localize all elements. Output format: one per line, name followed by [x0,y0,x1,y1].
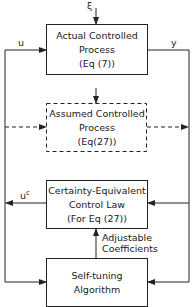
certainty-equivalent-control-law-block: Certainty-Equivalent Control Law (For Eq… [46,180,148,229]
block-label-line1: Assumed Controlled [49,107,144,121]
self-tuning-algorithm-block: Self-tuning Algorithm [46,258,148,307]
block-label-line1: Self-tuning [71,269,122,283]
block-label-line3: (For Eq (27)) [67,212,127,226]
input-u-label: u [18,37,24,48]
adjustable-coefficients-label-line1: Adjustable [102,232,152,243]
block-label-line2: Control Law [69,198,125,212]
block-label-line1: Certainty-Equivalent [48,184,146,198]
control-signal-label: uc [20,188,30,201]
adjustable-coefficients-label-line2: Coefficients [102,243,158,254]
block-diagram: Actual Controlled Process (Eq (7)) Assum… [0,0,193,307]
disturbance-label: ξ [87,0,92,11]
output-y-label: y [171,37,177,48]
block-label-line2: Process [79,43,115,57]
block-label-line2: Process [79,121,115,135]
block-label-line3: (Eq (7)) [79,57,115,71]
assumed-controlled-process-block: Assumed Controlled Process (Eq(27)) [46,103,148,152]
block-label-line2: Algorithm [74,283,121,297]
actual-controlled-process-block: Actual Controlled Process (Eq (7)) [46,24,148,75]
control-signal-superscript: c [26,189,30,197]
block-label-line1: Actual Controlled [56,29,138,43]
block-label-line3: (Eq(27)) [78,135,117,149]
